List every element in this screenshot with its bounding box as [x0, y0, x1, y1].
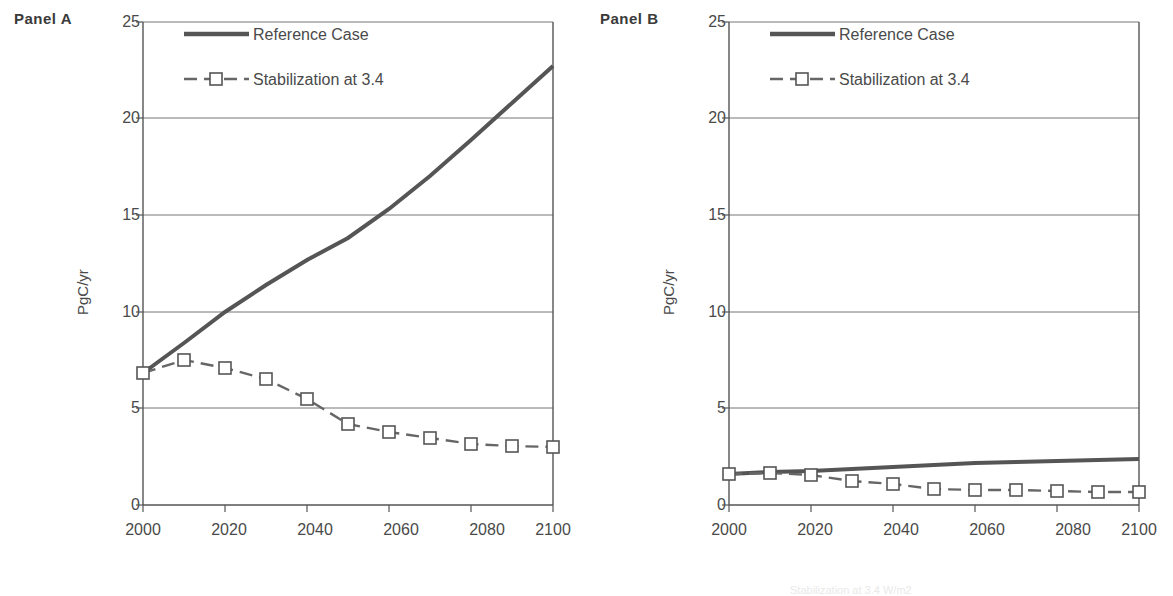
- panel-b-legend-swatch-stabilization: [770, 73, 835, 85]
- panel-a-legend-swatch-stabilization: [184, 73, 249, 85]
- panel-b-y-tickmarks: [722, 22, 729, 505]
- panel-a-x-tickmarks: [143, 505, 553, 512]
- panel-b-axes: [729, 22, 1139, 505]
- panel-a-axes: [143, 22, 553, 505]
- chart-panel-b: Panel B 25 20 15 10 5 0 2000 2020 2040 2…: [586, 0, 1173, 593]
- panel-a-series-reference: [143, 66, 553, 373]
- panel-a-series-stabilization: [143, 360, 553, 447]
- figure-footnote: Stabilization at 3.4 W/m2: [790, 584, 912, 596]
- panel-a-series-stabilization-markers: [137, 354, 559, 453]
- panel-a-plot: [0, 0, 586, 593]
- panel-b-plot: [586, 0, 1173, 593]
- chart-panel-a: Panel A 25 20 15 10 5 0 2000 2020 2040 2…: [0, 0, 586, 593]
- panel-b-x-tickmarks: [729, 505, 1139, 512]
- panel-a-y-tickmarks: [136, 22, 143, 505]
- panel-b-series-reference: [729, 459, 1139, 474]
